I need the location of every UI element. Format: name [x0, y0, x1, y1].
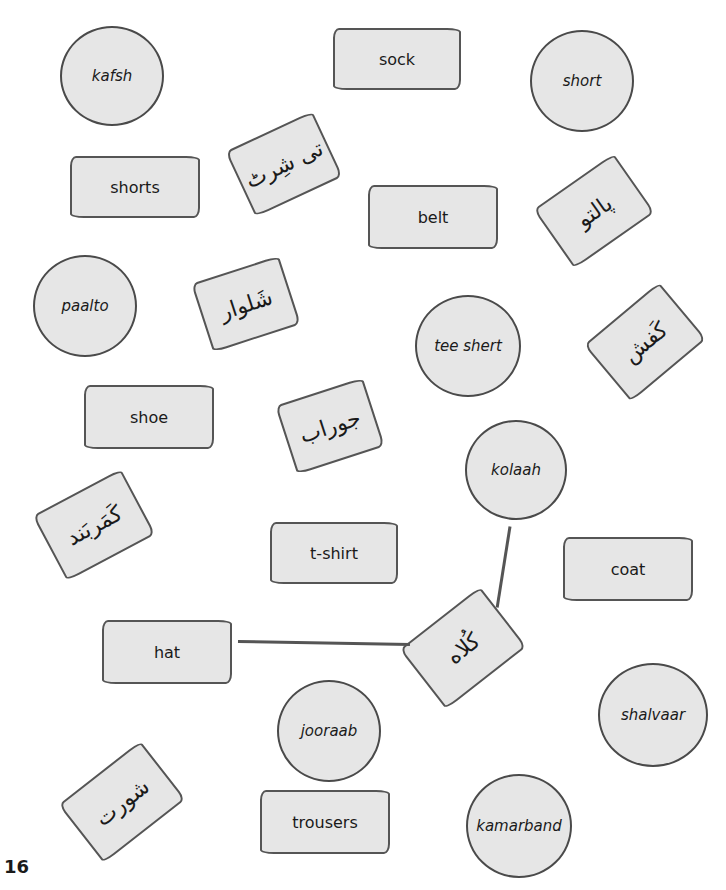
card-label: coat [611, 560, 646, 579]
circle-label: short [563, 72, 602, 90]
card-kolaah-urdu[interactable]: کُلاه [399, 587, 526, 710]
card-shorts[interactable]: shorts [70, 156, 200, 218]
circle-short[interactable]: short [530, 30, 634, 132]
circle-shalvaar[interactable]: shalvaar [598, 663, 708, 767]
connection-hat-kolaah [238, 640, 410, 646]
card-shoe[interactable]: shoe [84, 385, 214, 449]
card-label: تی شِرٹ [241, 135, 327, 193]
circle-jooraab[interactable]: jooraab [277, 680, 381, 782]
card-sock[interactable]: sock [333, 28, 461, 90]
card-label: شورت [90, 773, 154, 830]
card-kafsh-urdu[interactable]: کَفش [584, 282, 707, 402]
card-label: شَلوار [217, 284, 276, 324]
page-number: 16 [4, 856, 29, 877]
card-label: hat [154, 643, 180, 662]
card-label: کَمَربَند [62, 500, 126, 550]
connection-kolaah-circle [496, 526, 512, 607]
card-jooraab-urdu[interactable]: جوراب [275, 378, 385, 475]
card-label: shorts [110, 178, 159, 197]
card-short-urdu[interactable]: شورت [58, 741, 186, 863]
card-label: sock [379, 50, 415, 69]
card-label: کُلاه [441, 627, 484, 668]
card-label: کَفش [618, 316, 672, 367]
circle-label: kafsh [92, 67, 132, 85]
card-shalvaar-urdu[interactable]: شَلوار [191, 256, 301, 353]
card-paalto-urdu[interactable]: پالتو [533, 153, 655, 268]
circle-tee-shert[interactable]: tee shert [415, 295, 521, 397]
card-label: t-shirt [310, 544, 358, 563]
card-t-shirt[interactable]: t-shirt [270, 522, 398, 584]
circle-label: shalvaar [621, 706, 685, 724]
card-trousers[interactable]: trousers [260, 790, 390, 854]
circle-kamarband[interactable]: kamarband [466, 774, 572, 878]
card-kamarband-urdu[interactable]: کَمَربَند [32, 469, 155, 581]
circle-kolaah[interactable]: kolaah [465, 420, 567, 520]
circle-kafsh[interactable]: kafsh [60, 26, 164, 126]
card-label: جوراب [296, 404, 363, 447]
card-label: پالتو [571, 190, 616, 232]
card-label: belt [418, 208, 449, 227]
circle-label: kamarband [476, 817, 562, 835]
circle-label: tee shert [434, 337, 502, 355]
card-coat[interactable]: coat [563, 537, 693, 601]
card-hat[interactable]: hat [102, 620, 232, 684]
circle-label: paalto [61, 297, 108, 315]
card-tee-shirt-urdu[interactable]: تی شِرٹ [225, 111, 342, 217]
circle-paalto[interactable]: paalto [33, 255, 137, 357]
circle-label: kolaah [491, 461, 541, 479]
card-belt[interactable]: belt [368, 185, 498, 249]
circle-label: jooraab [301, 722, 358, 740]
card-label: shoe [130, 408, 168, 427]
card-label: trousers [292, 813, 358, 832]
